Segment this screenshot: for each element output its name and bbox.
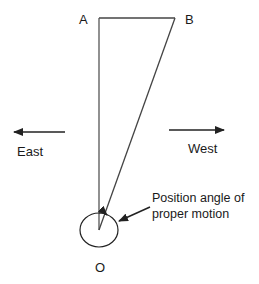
point-b-label: B <box>185 13 194 26</box>
west-label: West <box>188 142 217 155</box>
diagram-canvas <box>0 0 259 284</box>
annotation-text: Position angle of proper motion <box>152 190 244 222</box>
annotation-line-2: proper motion <box>152 206 244 222</box>
point-a-label: A <box>79 13 88 26</box>
annotation-line-1: Position angle of <box>152 190 244 206</box>
annotation-arrow-icon <box>119 207 150 221</box>
east-label: East <box>17 145 43 158</box>
point-o-label: O <box>95 261 105 274</box>
